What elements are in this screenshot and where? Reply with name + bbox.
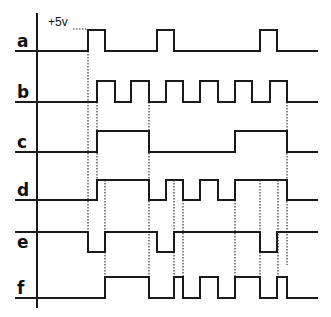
signal-label-f: f: [17, 278, 25, 298]
timing-diagram: abcdef +5v: [0, 0, 331, 317]
waveform-f: [37, 277, 318, 298]
signal-label-b: b: [17, 82, 29, 102]
signal-label-d: d: [17, 180, 29, 200]
signal-waveforms: [37, 30, 318, 298]
waveform-c: [37, 131, 318, 152]
signal-labels: abcdef: [17, 31, 29, 298]
waveform-b: [37, 81, 318, 102]
waveform-e: [37, 232, 318, 252]
dotted-guide-lines: [88, 30, 287, 277]
waveform-a: [37, 30, 318, 51]
voltage-label: +5v: [48, 15, 68, 29]
signal-label-a: a: [17, 31, 28, 51]
signal-label-e: e: [17, 232, 29, 252]
signal-label-c: c: [17, 132, 27, 152]
waveform-d: [37, 180, 318, 200]
